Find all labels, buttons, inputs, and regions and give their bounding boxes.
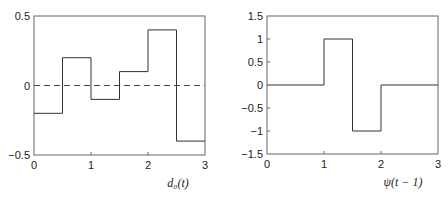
right-xtick-label: 3 xyxy=(435,158,441,170)
right-plot: 1.5 1 0.5 0 −0.5 −1 −1.5 0 1 2 3 ψ(t − 1… xyxy=(241,10,441,189)
right-xtick-label: 2 xyxy=(378,158,384,170)
right-xlabel: ψ(t − 1) xyxy=(384,175,423,189)
left-xtick-label: 1 xyxy=(88,159,94,171)
right-ytick-label: −0.5 xyxy=(241,102,263,114)
left-xlabel: d₀(t) xyxy=(167,176,189,190)
right-ytick-label: −1 xyxy=(250,125,263,137)
right-xtick-label: 0 xyxy=(264,158,270,170)
right-ytick-label: 1.5 xyxy=(248,10,263,22)
right-ytick-label: 0 xyxy=(257,79,263,91)
left-ytick-label: 0.5 xyxy=(15,10,30,22)
right-series-psi xyxy=(267,39,438,131)
right-ytick-label: −1.5 xyxy=(241,148,263,160)
left-xtick-label: 3 xyxy=(202,159,208,171)
left-ytick-label: −0.5 xyxy=(8,149,30,161)
left-plot: 0.5 0 −0.5 0 1 2 3 d₀(t) xyxy=(8,10,208,190)
left-ytick-label: 0 xyxy=(24,80,30,92)
right-ytick-label: 1 xyxy=(257,33,263,45)
left-xtick-label: 2 xyxy=(145,159,151,171)
right-ytick-label: 0.5 xyxy=(248,56,263,68)
figure: 0.5 0 −0.5 0 1 2 3 d₀(t) 1.5 1 0.5 0 −0.… xyxy=(0,0,448,197)
right-xtick-label: 1 xyxy=(321,158,327,170)
left-xtick-label: 0 xyxy=(31,159,37,171)
